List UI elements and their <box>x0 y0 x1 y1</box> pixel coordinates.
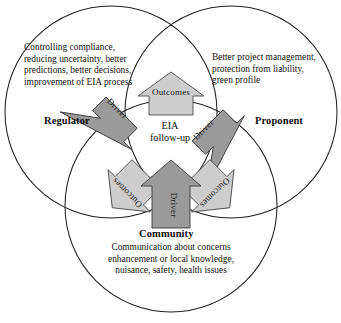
center-node-line1: EIA <box>162 120 179 131</box>
arrow-outcomes-top: Outcomes <box>138 72 204 115</box>
description-community: Communication about concerns enhancement… <box>86 242 256 277</box>
description-regulator-line-1: Controlling compliance, <box>24 42 132 54</box>
label-proponent: Proponent <box>255 115 303 126</box>
center-node-line2: follow-up <box>150 132 190 143</box>
arrow-outcomes-top-label: Outcomes <box>152 87 190 97</box>
description-proponent-line-1: Better project management, <box>212 52 316 64</box>
center-node-eia-followup: EIA follow-up <box>130 120 210 145</box>
description-regulator-line-4: improvement of EIA process <box>24 77 132 89</box>
description-regulator-line-2: reducing uncertainty, better <box>24 54 132 66</box>
description-community-line-3: nuisance, safety, health issues <box>86 265 256 277</box>
arrow-driver-community-label: Driver <box>169 193 179 218</box>
description-regulator: Controlling compliance, reducing uncerta… <box>24 42 132 88</box>
description-community-line-1: Communication about concerns <box>86 242 256 254</box>
eia-followup-venn-figure: Outcomes Driver Driver Outcomes Outcomes… <box>0 0 341 323</box>
description-community-line-2: enhancement or local knowledge, <box>86 254 256 266</box>
label-community: Community <box>139 228 194 239</box>
description-proponent-line-3: green profile <box>212 75 316 87</box>
label-regulator: Regulator <box>44 115 90 126</box>
description-regulator-line-3: predictions, better decisions, <box>24 65 132 77</box>
description-proponent-line-2: protection from liability, <box>212 64 316 76</box>
description-proponent: Better project management, protection fr… <box>212 52 316 87</box>
